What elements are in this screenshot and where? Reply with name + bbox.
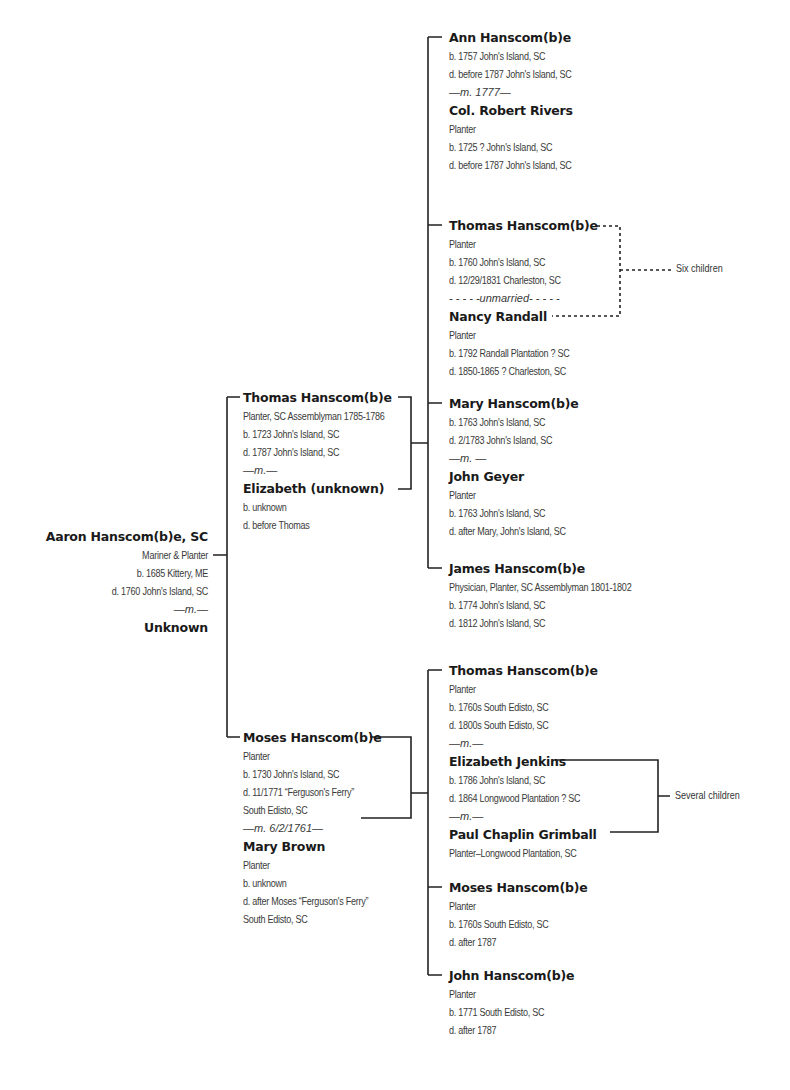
spouse-detail: Planter bbox=[449, 486, 566, 504]
gen2-moses: Moses Hanscom(b)e Planter b. 1730 John's… bbox=[243, 728, 389, 928]
spouse-detail: South Edisto, SC bbox=[243, 910, 368, 928]
person-name: Moses Hanscom(b)e bbox=[243, 728, 389, 747]
six-children-label: Six children bbox=[676, 262, 723, 274]
partner-detail: b. 1792 Randall Plantation ? SC bbox=[449, 344, 577, 362]
spouse-name: John Geyer bbox=[449, 467, 585, 486]
person-name: Thomas Hanscom(b)e bbox=[449, 216, 598, 235]
person-detail: South Edisto, SC bbox=[243, 801, 368, 819]
spouse-detail: d. before 1787 John's Island, SC bbox=[449, 156, 571, 174]
person-detail: b. 1763 John's Island, SC bbox=[449, 413, 566, 431]
person-detail: d. 2/1783 John's Island, SC bbox=[449, 431, 566, 449]
person-detail: Planter bbox=[243, 747, 368, 765]
person-detail: Planter bbox=[449, 985, 557, 1003]
person-detail: d. before 1787 John's Island, SC bbox=[449, 65, 571, 83]
marriage-label: —m. 1777— bbox=[449, 83, 591, 101]
person-name: Thomas Hanscom(b)e bbox=[243, 388, 408, 407]
person-detail: d. after 1787 bbox=[449, 1021, 557, 1039]
root-detail: Mariner & Planter bbox=[64, 546, 208, 564]
root-marriage: —m.— bbox=[40, 600, 208, 618]
spouse-name: Elizabeth Jenkins bbox=[449, 752, 602, 771]
spouse-detail: d. after Moses “Ferguson's Ferry” bbox=[243, 892, 368, 910]
person-detail: d. after 1787 bbox=[449, 933, 568, 951]
spouse-detail: b. 1763 John's Island, SC bbox=[449, 504, 566, 522]
person-detail: b. 1774 John's Island, SC bbox=[449, 596, 631, 614]
marriage-label: —m. — bbox=[449, 449, 585, 467]
spouse-detail: d. after Mary, John's Island, SC bbox=[449, 522, 566, 540]
partner-detail: d. 1850-1865 ? Charleston, SC bbox=[449, 362, 577, 380]
root-detail: b. 1685 Kittery, ME bbox=[64, 564, 208, 582]
person-detail: b. 1730 John's Island, SC bbox=[243, 765, 368, 783]
person-name: Mary Hanscom(b)e bbox=[449, 394, 585, 413]
person-name: John Hanscom(b)e bbox=[449, 966, 574, 985]
gen3-moses-jr: Moses Hanscom(b)e Planter b. 1760s South… bbox=[449, 878, 587, 951]
gen3-thomas-jr: Thomas Hanscom(b)e Planter b. 1760 John'… bbox=[449, 216, 598, 380]
person-detail: d. 1812 John's Island, SC bbox=[449, 614, 631, 632]
spouse-detail: d. 1864 Longwood Plantation ? SC bbox=[449, 789, 580, 807]
person-detail: d. 12/29/1831 Charleston, SC bbox=[449, 271, 577, 289]
person-detail: d. 1800s South Edisto, SC bbox=[449, 716, 580, 734]
person-detail: Planter bbox=[449, 897, 568, 915]
person-name: Ann Hanscom(b)e bbox=[449, 28, 591, 47]
person-detail: b. 1760s South Edisto, SC bbox=[449, 698, 580, 716]
person-name: Moses Hanscom(b)e bbox=[449, 878, 587, 897]
person-detail: b. 1760 John's Island, SC bbox=[449, 253, 577, 271]
person-detail: Physician, Planter, SC Assemblyman 1801-… bbox=[449, 578, 631, 596]
spouse-detail: Planter bbox=[449, 120, 571, 138]
gen3-thomas-moses: Thomas Hanscom(b)e Planter b. 1760s Sout… bbox=[449, 661, 602, 862]
gen3-james: James Hanscom(b)e Physician, Planter, SC… bbox=[449, 559, 661, 632]
spouse-name: Elizabeth (unknown) bbox=[243, 479, 408, 498]
gen3-mary: Mary Hanscom(b)e b. 1763 John's Island, … bbox=[449, 394, 585, 540]
unmarried-label: - - - - -unmarried- - - - - bbox=[449, 289, 598, 307]
person-detail: b. 1757 John's Island, SC bbox=[449, 47, 571, 65]
person-detail: b. 1760s South Edisto, SC bbox=[449, 915, 568, 933]
root-person: Aaron Hanscom(b)e, SC Mariner & Planter … bbox=[40, 527, 208, 637]
marriage-label: —m.— bbox=[449, 807, 602, 825]
moses-children-line bbox=[428, 670, 442, 975]
partner-detail: Planter bbox=[449, 326, 577, 344]
spouse-detail: Planter bbox=[243, 856, 368, 874]
person-detail: d. 11/1771 “Ferguson's Ferry” bbox=[243, 783, 368, 801]
gen2-thomas: Thomas Hanscom(b)e Planter, SC Assemblym… bbox=[243, 388, 408, 534]
person-name: Thomas Hanscom(b)e bbox=[449, 661, 602, 680]
root-detail: d. 1760 John's Island, SC bbox=[64, 582, 208, 600]
gen3-ann: Ann Hanscom(b)e b. 1757 John's Island, S… bbox=[449, 28, 591, 174]
spouse-detail: b. unknown bbox=[243, 874, 368, 892]
person-detail: b. 1723 John's Island, SC bbox=[243, 425, 385, 443]
root-spouse: Unknown bbox=[40, 618, 208, 637]
spouse-name: Col. Robert Rivers bbox=[449, 101, 591, 120]
person-detail: Planter, SC Assemblyman 1785-1786 bbox=[243, 407, 385, 425]
spouse-detail: b. 1725 ? John's Island, SC bbox=[449, 138, 571, 156]
thomas-children-line bbox=[428, 37, 442, 568]
spouse-detail: d. before Thomas bbox=[243, 516, 385, 534]
person-detail: d. 1787 John's Island, SC bbox=[243, 443, 385, 461]
root-connector bbox=[213, 397, 240, 737]
partner-name: Nancy Randall bbox=[449, 307, 598, 326]
person-detail: Planter bbox=[449, 680, 580, 698]
spouse-name: Paul Chaplin Grimball bbox=[449, 825, 602, 844]
marriage-label: —m. 6/2/1761— bbox=[243, 819, 389, 837]
gen3-john: John Hanscom(b)e Planter b. 1771 South E… bbox=[449, 966, 574, 1039]
marriage-label: —m.— bbox=[243, 461, 408, 479]
spouse-name: Mary Brown bbox=[243, 837, 389, 856]
spouse-detail: b. unknown bbox=[243, 498, 385, 516]
several-children-label: Several children bbox=[675, 789, 740, 801]
marriage-label: —m.— bbox=[449, 734, 602, 752]
person-name: James Hanscom(b)e bbox=[449, 559, 661, 578]
spouse-detail: Planter–Longwood Plantation, SC bbox=[449, 844, 580, 862]
root-name: Aaron Hanscom(b)e, SC bbox=[40, 527, 208, 546]
person-detail: Planter bbox=[449, 235, 577, 253]
spouse-detail: b. 1786 John's Island, SC bbox=[449, 771, 580, 789]
person-detail: b. 1771 South Edisto, SC bbox=[449, 1003, 557, 1021]
